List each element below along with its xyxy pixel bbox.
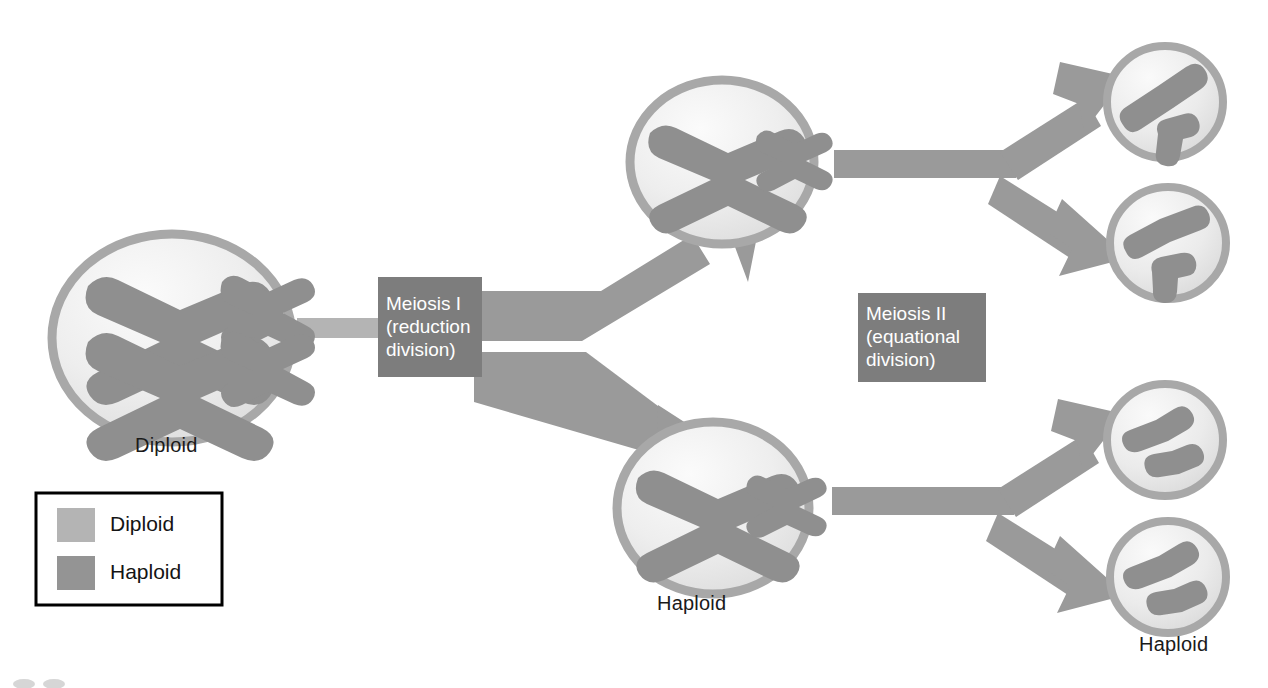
meiosis-1-label: Meiosis I (reduction division) bbox=[386, 292, 471, 361]
daughter-cell-4 bbox=[1110, 521, 1226, 633]
daughter-cell-1 bbox=[1107, 46, 1223, 166]
daughter-cell-3 bbox=[1107, 384, 1223, 496]
legend-label-haploid: Haploid bbox=[110, 560, 181, 584]
meiosis-2-line1: Meiosis II bbox=[866, 303, 946, 324]
meiosis-diagram: Meiosis I (reduction division) Meiosis I… bbox=[0, 0, 1268, 688]
arrow-meiosis2-upper-bottom bbox=[988, 176, 1128, 276]
arrow-meiosis2-upper-top bbox=[834, 62, 1126, 180]
haploid-cell-lower bbox=[617, 422, 827, 594]
legend-swatch-diploid bbox=[57, 508, 95, 542]
diagram-canvas bbox=[0, 0, 1268, 688]
legend-swatch-haploid bbox=[57, 556, 95, 590]
meiosis-2-line3: division) bbox=[866, 349, 936, 370]
haploid-daughter-label: Haploid bbox=[1139, 633, 1208, 656]
meiosis-2-label: Meiosis II (equational division) bbox=[866, 302, 960, 371]
meiosis-1-line1: Meiosis I bbox=[386, 293, 461, 314]
meiosis-2-line2: (equational bbox=[866, 326, 960, 347]
legend bbox=[36, 493, 222, 605]
legend-label-diploid: Diploid bbox=[110, 512, 174, 536]
diploid-parent-label: Diploid bbox=[135, 434, 198, 457]
meiosis-1-line3: division) bbox=[386, 339, 456, 360]
arrow-meiosis2-lower-bottom bbox=[986, 513, 1126, 613]
daughter-cell-2 bbox=[1110, 187, 1226, 303]
meiosis-1-line2: (reduction bbox=[386, 316, 471, 337]
haploid-cell-upper bbox=[630, 80, 833, 244]
haploid-middle-label: Haploid bbox=[657, 592, 726, 615]
arrow-meiosis2-lower-top bbox=[832, 399, 1124, 517]
parent-diploid-cell bbox=[52, 234, 315, 461]
page-artifact bbox=[13, 679, 65, 688]
